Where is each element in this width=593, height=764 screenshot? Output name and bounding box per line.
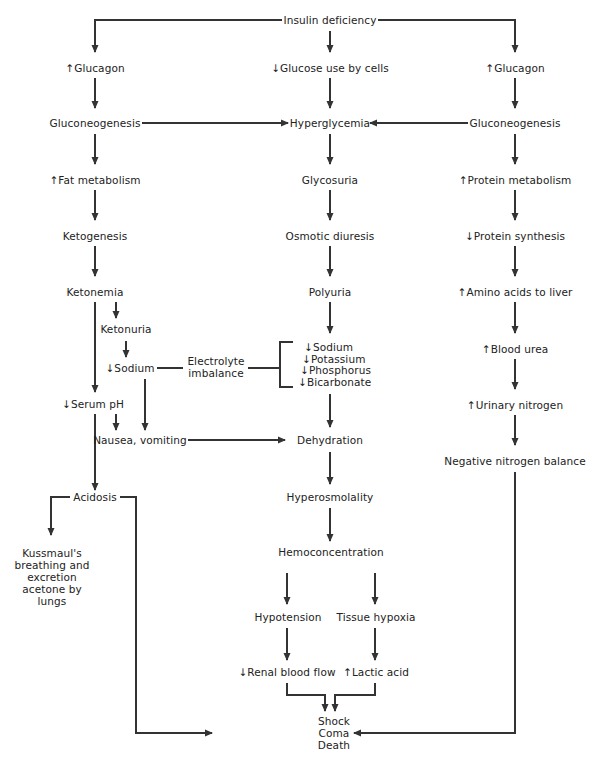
node-kussmaul: Kussmaul's breathing and excretion aceto… xyxy=(14,547,89,607)
node-electrolyte-list: ↓Sodium ↓Potassium ↓Phosphorus ↓Bicarbon… xyxy=(298,342,371,388)
node-renal-blood-flow: ↓Renal blood flow xyxy=(238,666,335,678)
kussmaul-line-3: excretion xyxy=(14,571,89,583)
node-ketonemia: Ketonemia xyxy=(67,286,124,298)
node-hyperosmolality: Hyperosmolality xyxy=(287,491,374,503)
electrolyte-bicarbonate: ↓Bicarbonate xyxy=(298,377,371,389)
node-nausea-vomiting: Nausea, vomiting xyxy=(93,434,187,446)
outcome-coma: Coma xyxy=(318,727,350,739)
node-gluconeogenesis-left: Gluconeogenesis xyxy=(49,117,140,129)
flowchart: Insulin deficiency ↑Glucagon ↓Glucose us… xyxy=(0,0,593,764)
node-dehydration: Dehydration xyxy=(297,434,363,446)
node-polyuria: Polyuria xyxy=(309,286,352,298)
node-hyperglycemia: Hyperglycemia xyxy=(290,117,370,129)
node-protein-metabolism: ↑Protein metabolism xyxy=(459,174,572,186)
node-glucose-use: ↓Glucose use by cells xyxy=(271,62,389,74)
node-acidosis: Acidosis xyxy=(73,491,116,503)
kussmaul-line-4: acetone by xyxy=(14,583,89,595)
connector-arrows xyxy=(0,0,593,764)
outcome-shock: Shock xyxy=(318,715,350,727)
kussmaul-line-1: Kussmaul's xyxy=(14,547,89,559)
node-fat-metabolism: ↑Fat metabolism xyxy=(49,174,140,186)
node-tissue-hypoxia: Tissue hypoxia xyxy=(336,611,415,623)
node-protein-synthesis: ↓Protein synthesis xyxy=(465,230,565,242)
electrolyte-phosphorus: ↓Phosphorus xyxy=(298,365,371,377)
node-amino-acids: ↑Amino acids to liver xyxy=(458,286,573,298)
node-glucagon-left: ↑Glucagon xyxy=(65,62,124,74)
node-osmotic-diuresis: Osmotic diuresis xyxy=(286,230,375,242)
electrolyte-line-1: Electrolyte xyxy=(187,355,244,367)
kussmaul-line-5: lungs xyxy=(14,595,89,607)
kussmaul-line-2: breathing and xyxy=(14,559,89,571)
node-insulin-deficiency: Insulin deficiency xyxy=(283,14,376,26)
outcome-death: Death xyxy=(318,739,350,751)
node-hypotension: Hypotension xyxy=(255,611,322,623)
node-negative-nitrogen-balance: Negative nitrogen balance xyxy=(444,455,586,467)
electrolyte-sodium: ↓Sodium xyxy=(298,342,371,354)
electrolyte-line-2: imbalance xyxy=(187,367,244,379)
node-lactic-acid: ↑Lactic acid xyxy=(343,666,409,678)
node-glycosuria: Glycosuria xyxy=(302,174,358,186)
node-hemoconcentration: Hemoconcentration xyxy=(278,546,383,558)
node-glucagon-right: ↑Glucagon xyxy=(485,62,544,74)
node-urinary-nitrogen: ↑Urinary nitrogen xyxy=(467,399,563,411)
node-electrolyte-imbalance: Electrolyte imbalance xyxy=(187,355,244,379)
node-blood-urea: ↑Blood urea xyxy=(482,343,549,355)
node-serum-ph: ↓Serum pH xyxy=(62,398,124,410)
node-ketogenesis: Ketogenesis xyxy=(63,230,128,242)
node-outcome: Shock Coma Death xyxy=(318,715,350,751)
node-gluconeogenesis-right: Gluconeogenesis xyxy=(469,117,560,129)
node-sodium-left: ↓Sodium xyxy=(105,362,154,374)
node-ketonuria: Ketonuria xyxy=(100,323,151,335)
